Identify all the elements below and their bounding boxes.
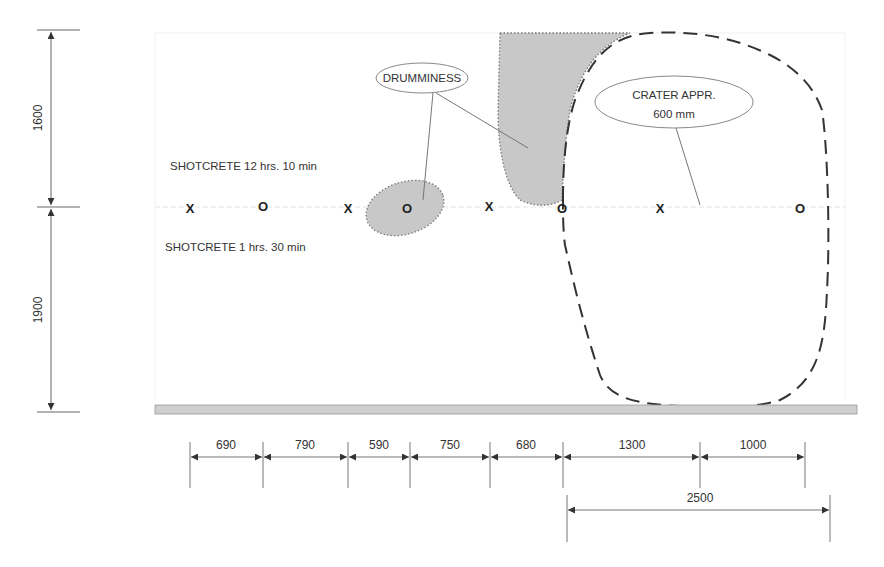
note-shotcrete-upper: SHOTCRETE 12 hrs. 10 min <box>170 160 317 172</box>
dim-label: 590 <box>369 438 389 452</box>
marker-x: X <box>186 201 195 216</box>
dim-label: 680 <box>516 438 536 452</box>
dim-label-total: 2500 <box>687 491 714 505</box>
marker-x: X <box>485 199 494 214</box>
callout-crater-line1: CRATER APPR. <box>632 89 716 101</box>
marker-o: O <box>402 201 412 216</box>
drumminess-zone-large <box>498 33 630 205</box>
dim-label-1900: 1900 <box>31 296 45 323</box>
dim-label: 1300 <box>619 438 646 452</box>
tunnel-face-diagram: 1600 1900 SHOTCRETE 12 hrs. 10 min SHOTC… <box>0 0 884 567</box>
dim-label-1600: 1600 <box>31 104 45 131</box>
marker-x: X <box>344 201 353 216</box>
vertical-dimension-1900: 1900 <box>31 209 80 412</box>
dim-label: 750 <box>440 438 460 452</box>
horizontal-dimension-labels: 690 790 590 750 680 1300 1000 2500 <box>216 438 767 505</box>
note-shotcrete-lower: SHOTCRETE 1 hrs. 30 min <box>165 241 306 253</box>
marker-o: O <box>557 201 567 216</box>
marker-x: X <box>656 201 665 216</box>
callout-crater-line2: 600 mm <box>653 108 695 120</box>
horizontal-dimensions <box>190 442 830 542</box>
marker-o: O <box>258 199 268 214</box>
dim-label: 690 <box>216 438 236 452</box>
marker-o: O <box>795 201 805 216</box>
callout-crater: CRATER APPR. 600 mm <box>595 76 753 205</box>
vertical-dimension-1600: 1600 <box>31 30 80 207</box>
callout-drumminess-label: DRUMMINESS <box>383 72 462 84</box>
dim-label: 1000 <box>740 438 767 452</box>
floor-bar <box>155 405 857 414</box>
dim-label: 790 <box>295 438 315 452</box>
